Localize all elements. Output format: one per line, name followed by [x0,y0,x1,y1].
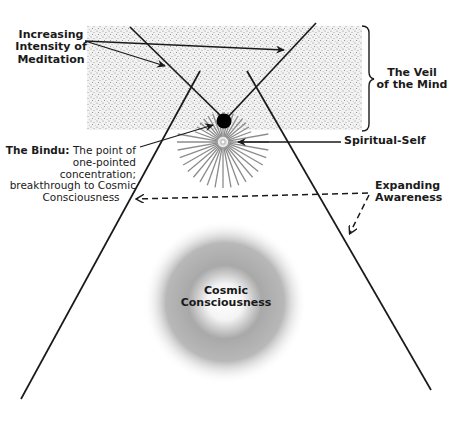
label-line: Consciousness [180,297,272,309]
label-line: of the Mind [372,79,452,91]
label-line: Meditation [14,54,88,66]
label-line: Intensity of [14,41,88,53]
expanding-arrow-horizontal [137,193,368,199]
expanding-arrow-diagonal [350,195,369,233]
bindu-title: The Bindu: [6,144,70,156]
spiritual-self-label: Spiritual-Self [344,135,426,147]
cosmic-consciousness-label: Cosmic Consciousness [180,285,272,310]
bindu-desc: The point of [70,144,136,156]
expanding-awareness-label: Expanding Awareness [375,180,442,205]
increasing-intensity-label: Increasing Intensity of Meditation [14,29,88,66]
label-line: The Bindu: The point of [2,145,136,157]
bindu-dot [217,114,232,129]
label-line: Consciousness [2,192,136,204]
bindu-label: The Bindu: The point of one-pointed conc… [2,145,136,204]
label-line: Awareness [375,192,442,204]
veil-label: The Veil of the Mind [372,67,452,92]
label-line: one-pointed concentration; [2,157,136,181]
